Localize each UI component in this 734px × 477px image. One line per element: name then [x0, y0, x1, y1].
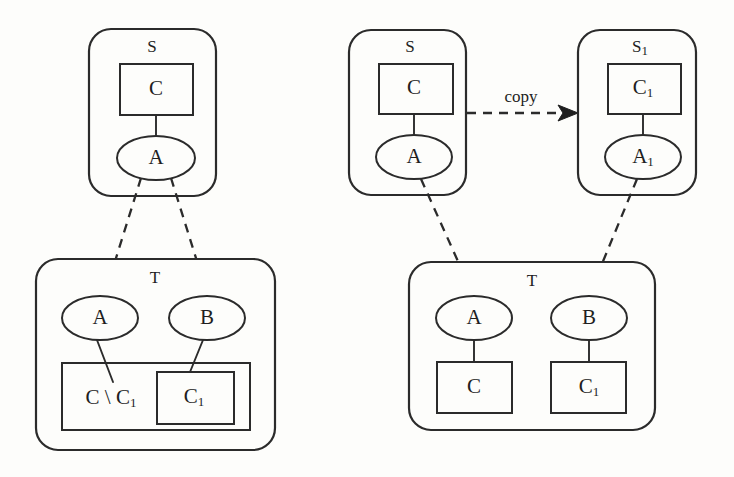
instance-ellipse-A-in-S-right-label: A	[406, 144, 422, 168]
class-box-C-minus-C1-label: C \ C1	[86, 385, 137, 410]
class-box-C-in-S-right-label: C	[407, 75, 421, 99]
class-box-C-in-T-right-label: C	[467, 374, 481, 398]
copy-edge-group: copy	[467, 87, 578, 121]
instance-ellipse-B-in-T-left-label: B	[200, 305, 214, 329]
instance-ellipse-A-in-T-right-label: A	[466, 305, 482, 329]
instance-ellipse-A-in-S-left-label: A	[148, 145, 164, 169]
instance-ellipse-B-in-T-right-label: B	[582, 305, 596, 329]
container-S-right-label: S	[405, 37, 414, 56]
container-T-left-label: T	[150, 268, 161, 287]
container-S1-right[interactable]: S1 C1 A1	[578, 30, 696, 195]
instance-ellipse-A-in-T-left-label: A	[92, 305, 108, 329]
panel-before-copy: S C A T A B	[36, 29, 275, 450]
container-T-right[interactable]: T A B C C1	[409, 262, 655, 430]
container-T-right-label: T	[527, 271, 538, 290]
panel-after-copy: S C A copy S1 C1	[349, 30, 696, 430]
diagram-root: S C A T A B	[0, 0, 734, 477]
class-box-C-in-S-left-label: C	[149, 76, 163, 100]
copy-edge-arrowhead	[558, 105, 578, 121]
container-T-left[interactable]: T A B C \ C1 C1	[36, 259, 275, 450]
container-S-right[interactable]: S C A	[349, 30, 466, 195]
copy-edge-label: copy	[504, 87, 538, 106]
diagram-canvas: S C A T A B	[0, 0, 734, 477]
container-S-left[interactable]: S C A	[89, 29, 216, 196]
container-S-left-label: S	[147, 37, 156, 56]
